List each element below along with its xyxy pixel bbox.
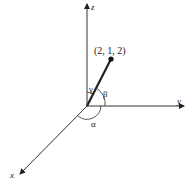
point-label: (2, 1, 2) <box>94 45 126 57</box>
x-axis-label: x <box>9 170 14 180</box>
alpha-arc <box>78 106 101 119</box>
y-axis-label: y <box>176 96 181 106</box>
direction-angles-diagram: z y x (2, 1, 2) γ β α <box>0 0 186 180</box>
alpha-label: α <box>91 119 96 129</box>
beta-label: β <box>103 89 108 99</box>
z-axis-label: z <box>90 2 95 12</box>
x-axis <box>20 106 87 174</box>
point-marker <box>108 56 113 61</box>
gamma-label: γ <box>88 84 93 94</box>
